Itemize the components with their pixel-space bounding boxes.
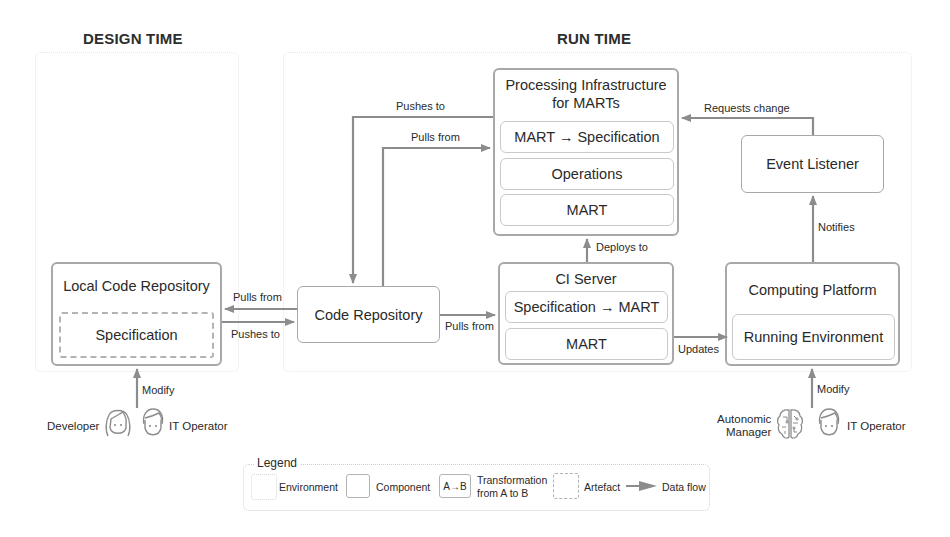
specification-to-mart-transformation[interactable]: Specification → MART — [505, 291, 668, 323]
legend-title: Legend — [254, 456, 300, 470]
local-code-repository[interactable]: Local Code Repository Specification — [51, 262, 222, 366]
legend-component-swatch — [346, 474, 370, 498]
local-code-repository-title: Local Code Repository — [53, 278, 220, 294]
code-repository-title: Code Repository — [315, 307, 423, 323]
mart-to-specification-transformation[interactable]: MART → Specification — [500, 121, 674, 153]
legend-artefact-swatch — [553, 473, 579, 499]
run-time-heading: RUN TIME — [557, 30, 631, 47]
label-pulls-from-ci: Pulls from — [445, 320, 494, 332]
brain-icon — [775, 407, 805, 441]
label-modify-platform: Modify — [817, 383, 849, 395]
processing-infrastructure-title-line2: for MARTs — [495, 94, 677, 112]
label-pushes-to-code: Pushes to — [231, 328, 280, 340]
processing-infrastructure-title-line1: Processing Infrastructure — [495, 76, 677, 94]
event-listener[interactable]: Event Listener — [741, 135, 884, 193]
label-pulls-from-infra: Pulls from — [411, 131, 460, 143]
developer-icon — [103, 406, 133, 442]
mart-artefact-ci[interactable]: MART — [505, 328, 668, 360]
legend-environment-label: Environment — [279, 481, 338, 493]
label-pulls-from-local: Pulls from — [233, 291, 282, 303]
it-operator-label-run: IT Operator — [847, 420, 906, 432]
running-environment[interactable]: Running Environment — [732, 314, 895, 360]
processing-infrastructure[interactable]: Processing Infrastructure for MARTs MART… — [493, 68, 679, 236]
it-operator-icon-run — [816, 406, 842, 442]
legend-environment-swatch — [251, 474, 277, 500]
label-pushes-to-code-from-infra: Pushes to — [396, 100, 445, 112]
autonomic-manager-label-line2: Manager — [717, 426, 771, 439]
legend-transformation-swatch: A→B — [439, 474, 471, 498]
legend-component-label: Component — [376, 481, 430, 493]
it-operator-icon-design — [140, 406, 166, 442]
autonomic-manager-label-line1: Autonomic — [717, 413, 771, 426]
ci-server[interactable]: CI Server Specification → MART MART — [498, 262, 674, 365]
label-modify-local: Modify — [142, 384, 174, 396]
specification-artefact[interactable]: Specification — [59, 312, 214, 358]
developer-label: Developer — [47, 420, 99, 432]
label-deploys-to: Deploys to — [596, 241, 648, 253]
design-time-heading: DESIGN TIME — [83, 30, 183, 47]
it-operator-label-design: IT Operator — [169, 420, 228, 432]
label-requests-change: Requests change — [704, 102, 790, 114]
label-updates: Updates — [678, 343, 719, 355]
legend-transformation-label: Transformation from A to B — [477, 474, 547, 500]
label-notifies: Notifies — [818, 221, 855, 233]
processing-infrastructure-title: Processing Infrastructure for MARTs — [495, 76, 677, 112]
legend-artefact-label: Artefact — [584, 481, 620, 493]
ci-server-title: CI Server — [500, 271, 672, 287]
event-listener-title: Event Listener — [766, 156, 859, 172]
legend-transformation-line1: Transformation — [477, 474, 547, 487]
mart-artefact-infra[interactable]: MART — [500, 194, 674, 226]
legend-data-flow-label: Data flow — [662, 481, 706, 493]
computing-platform[interactable]: Computing Platform Running Environment — [725, 262, 900, 366]
operations-component[interactable]: Operations — [500, 158, 674, 190]
code-repository[interactable]: Code Repository — [297, 286, 440, 343]
legend-transformation-line2: from A to B — [477, 487, 547, 500]
legend-data-flow-arrow-icon — [625, 480, 659, 492]
computing-platform-title: Computing Platform — [727, 282, 898, 298]
autonomic-manager-label: Autonomic Manager — [717, 413, 771, 439]
